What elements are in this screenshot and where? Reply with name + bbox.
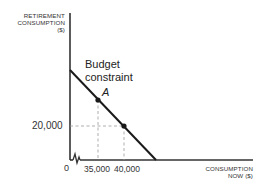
- budget-label-line2: constraint: [85, 71, 133, 84]
- point-a: [95, 97, 100, 102]
- origin-label: 0: [64, 163, 69, 173]
- x-tick-40000: 40,000: [114, 164, 140, 174]
- y-axis-label-line2: CONSUMPTION: [2, 19, 65, 26]
- x-axis-label-line1: CONSUMPTION: [200, 165, 253, 172]
- y-axis-label: RETIREMENT CONSUMPTION ($): [2, 12, 65, 33]
- point-b: [121, 123, 126, 128]
- y-axis-label-line3: ($): [2, 26, 65, 33]
- budget-constraint-label: Budget constraint: [85, 58, 133, 84]
- x-axis-label: CONSUMPTION NOW ($): [200, 165, 253, 179]
- y-tick-20000: 20,000: [32, 120, 63, 131]
- budget-label-line1: Budget: [85, 58, 133, 71]
- x-axis-label-line2: NOW ($): [200, 172, 253, 179]
- point-a-label: A: [102, 86, 109, 99]
- x-tick-35000: 35,000: [84, 164, 110, 174]
- y-axis-label-line1: RETIREMENT: [2, 12, 65, 19]
- axis-break-icon: [73, 154, 80, 163]
